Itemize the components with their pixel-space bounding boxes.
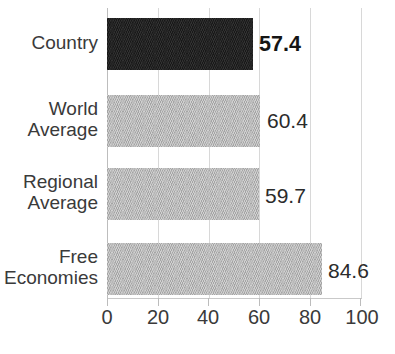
category-label-line: Economies: [4, 268, 98, 289]
tick-mark-60: [259, 298, 260, 306]
tick-mark-20: [158, 298, 159, 306]
category-label-world-average: World Average: [28, 99, 98, 140]
tick-label-20: 20: [147, 306, 169, 328]
value-label-regional-average: 59.7: [265, 185, 306, 206]
bar-world-average: [107, 95, 260, 147]
tick-label-60: 60: [248, 306, 270, 328]
bar-chart: Country World Average Regional Average F…: [0, 0, 395, 354]
category-label-regional-average: Regional Average: [23, 172, 98, 213]
category-label-line: Country: [31, 33, 98, 54]
category-label-line: Regional: [23, 172, 98, 193]
category-label-free-economies: Free Economies: [4, 247, 98, 288]
tick-label-80: 80: [299, 306, 321, 328]
category-label-country: Country: [31, 33, 98, 54]
x-axis-line: [107, 298, 362, 299]
tick-label-40: 40: [197, 306, 219, 328]
bar-regional-average: [107, 168, 259, 220]
tick-label-100: 100: [345, 306, 378, 328]
tick-mark-80: [310, 298, 311, 306]
category-label-line: Average: [23, 193, 98, 214]
category-label-line: Average: [28, 120, 98, 141]
category-label-line: World: [28, 99, 98, 120]
value-label-free-economies: 84.6: [328, 260, 369, 281]
value-label-country: 57.4: [259, 34, 301, 56]
value-label-world-average: 60.4: [267, 110, 308, 131]
tick-mark-40: [208, 298, 209, 306]
plot-area: [107, 8, 361, 298]
bar-free-economies: [107, 243, 322, 295]
bar-country: [107, 18, 253, 70]
gridline-100: [361, 8, 362, 298]
tick-mark-0: [107, 298, 108, 306]
tick-label-0: 0: [101, 306, 112, 328]
category-label-line: Free: [4, 247, 98, 268]
tick-mark-100: [360, 298, 361, 306]
